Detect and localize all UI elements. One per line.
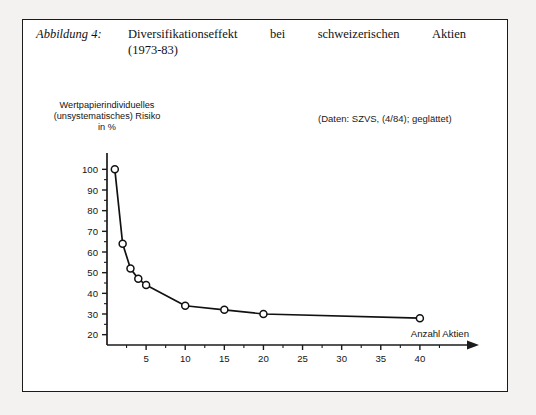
data-point-marker	[143, 282, 150, 289]
y-axis: 2030405060708090100	[82, 153, 107, 345]
y-tick-label: 30	[87, 309, 98, 320]
y-tick-label: 80	[87, 205, 98, 216]
y-tick-label: 100	[82, 164, 98, 175]
data-point-marker	[111, 166, 118, 173]
data-point-marker	[182, 302, 189, 309]
x-tick-label: 35	[375, 353, 386, 364]
x-tick-label: 15	[219, 353, 230, 364]
data-point-marker	[119, 240, 126, 247]
x-axis-label: Anzahl Aktien	[411, 328, 469, 339]
y-tick-label: 50	[87, 267, 98, 278]
data-point-marker	[135, 275, 142, 282]
data-point-marker	[221, 306, 228, 313]
x-tick-label: 40	[415, 353, 426, 364]
data-point-marker	[127, 265, 134, 272]
x-tick-label: 5	[143, 353, 148, 364]
figure-page: Abbildung 4: Diversifikationseffekt bei …	[0, 0, 536, 415]
x-tick-label: 20	[258, 353, 269, 364]
y-tick-label: 40	[87, 288, 98, 299]
x-axis: 510152025303540	[107, 340, 479, 364]
x-axis-arrow	[467, 340, 479, 349]
diversification-chart: 2030405060708090100 510152025303540 Anza…	[22, 19, 508, 392]
y-tick-label: 90	[87, 185, 98, 196]
data-point-marker	[416, 315, 423, 322]
data-point-marker	[260, 311, 267, 318]
data-series	[111, 166, 423, 322]
y-tick-label: 70	[87, 226, 98, 237]
x-tick-label: 30	[336, 353, 347, 364]
y-tick-label: 20	[87, 329, 98, 340]
x-tick-label: 10	[180, 353, 191, 364]
x-tick-label: 25	[297, 353, 308, 364]
y-tick-label: 60	[87, 247, 98, 258]
